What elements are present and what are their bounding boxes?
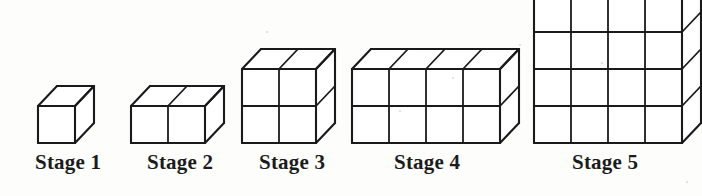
stage-1-front-face: [38, 106, 75, 143]
stage-3-block: [242, 49, 335, 143]
stage-5-label: Stage 5: [572, 152, 638, 173]
scan-speck: [452, 77, 454, 79]
stage-2-block: [131, 86, 224, 143]
scan-speck: [686, 181, 688, 183]
scan-speck: [399, 110, 401, 112]
scan-speck: [601, 62, 603, 64]
stage-4-block: [352, 49, 519, 143]
stage-1-label: Stage 1: [35, 152, 101, 173]
stage-5-block: [534, 0, 701, 143]
scan-speck: [266, 31, 268, 33]
stage-1-block: [38, 86, 94, 143]
stage-2-label: Stage 2: [147, 152, 213, 173]
cube-stages-figure: Stage 1Stage 2Stage 3Stage 4Stage 5: [0, 0, 702, 196]
scan-speck: [519, 44, 521, 46]
stage-3-label: Stage 3: [259, 152, 325, 173]
stage-4-label: Stage 4: [394, 152, 460, 173]
